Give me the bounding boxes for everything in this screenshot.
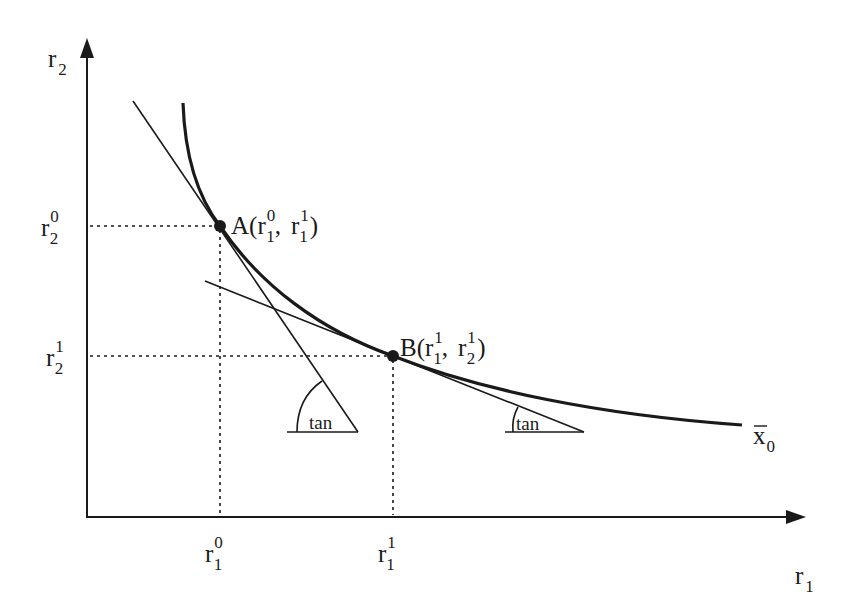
- point-b: [387, 350, 399, 362]
- point-a-label: A(r01,r11): [231, 206, 318, 246]
- tangent-line-a: [133, 101, 358, 432]
- y-tick-r2-1: r12: [46, 337, 64, 378]
- x-axis-arrow-icon: [786, 510, 806, 524]
- y-axis-arrow-icon: [80, 38, 94, 58]
- x-axis-label: r1: [795, 562, 814, 596]
- isoquant-diagram: r2 r1 r02 r12 r01 r11 A(r01,r11) B(r11,r…: [0, 0, 846, 599]
- isoquant-curve: [183, 103, 742, 425]
- x-tick-r1-0: r01: [205, 533, 223, 574]
- axes: [80, 38, 806, 524]
- curve-label: x0: [753, 422, 775, 456]
- y-axis-label: r2: [48, 45, 67, 79]
- y-tick-r2-0: r02: [41, 207, 59, 248]
- guide-lines: [90, 226, 393, 515]
- x-tick-r1-1: r11: [378, 533, 395, 574]
- angle-label-a: tan: [309, 412, 333, 433]
- point-a: [214, 220, 226, 232]
- angle-label-b: tan: [516, 413, 540, 434]
